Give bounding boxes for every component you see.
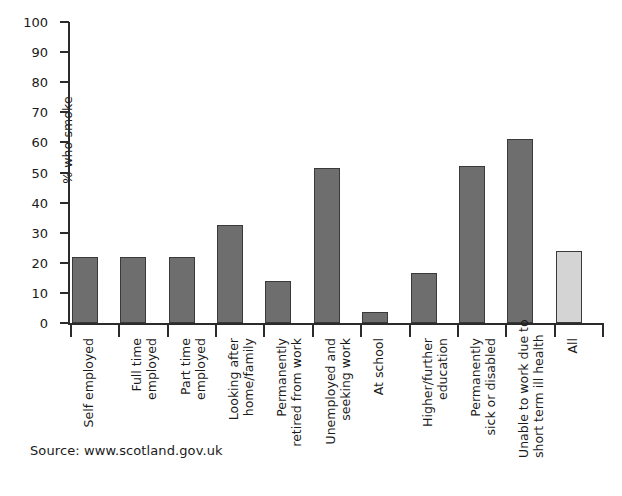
y-tick-label: 90 xyxy=(31,46,48,59)
bar[interactable] xyxy=(120,257,146,323)
x-category-label-line: retired from work xyxy=(290,338,305,458)
x-category-label: All xyxy=(566,338,581,458)
y-tick-mark xyxy=(60,21,69,23)
plot-area xyxy=(70,22,602,323)
bar-slot xyxy=(263,22,311,323)
x-category-label-line: seeking work xyxy=(338,338,353,458)
bar-slot xyxy=(457,22,505,323)
y-axis-tick-labels: 0102030405060708090100 xyxy=(0,0,52,340)
bar[interactable] xyxy=(362,312,388,323)
x-category-label: Permanentlyretired from work xyxy=(275,338,304,458)
x-category-label-line: Permanently xyxy=(469,338,484,458)
bar-slot xyxy=(554,22,602,323)
x-category-label-line: Unable to work due to xyxy=(517,338,532,458)
x-category-label-line: Looking after xyxy=(227,338,242,458)
y-tick-label: 100 xyxy=(23,16,48,29)
x-tick-mark xyxy=(167,325,169,337)
bar-slot xyxy=(70,22,118,323)
x-category-label-line: employed xyxy=(193,338,208,458)
bar[interactable] xyxy=(169,257,195,323)
x-category-label-line: Full time xyxy=(130,338,145,458)
bar-slot xyxy=(167,22,215,323)
x-category-label-line: All xyxy=(566,338,581,458)
x-category-label-line: short term ill health xyxy=(532,338,547,458)
bar[interactable] xyxy=(265,281,291,323)
x-category-label-line: education xyxy=(435,338,450,458)
x-tick-mark xyxy=(263,325,265,337)
bar-chart: % who smoke 0102030405060708090100 Self … xyxy=(0,0,622,496)
bar[interactable] xyxy=(411,273,437,323)
x-category-label: Higher/furthereducation xyxy=(421,338,450,458)
source-note: Source: www.scotland.gov.uk xyxy=(30,443,223,458)
x-category-label: At school xyxy=(372,338,387,458)
y-tick-label: 10 xyxy=(31,286,48,299)
x-category-label-line: sick or disabled xyxy=(483,338,498,458)
x-category-label: Unemployed andseeking work xyxy=(324,338,353,458)
x-category-label-line: Part time xyxy=(179,338,194,458)
bar-slot xyxy=(118,22,166,323)
bar-slot xyxy=(312,22,360,323)
y-tick-mark xyxy=(60,51,69,53)
x-tick-mark xyxy=(312,325,314,337)
bar[interactable] xyxy=(314,168,340,323)
y-tick-label: 60 xyxy=(31,136,48,149)
y-tick-mark xyxy=(60,81,69,83)
bar-slot xyxy=(360,22,408,323)
bar[interactable] xyxy=(217,225,243,323)
x-category-label: Self employed xyxy=(82,338,97,458)
bar[interactable] xyxy=(72,257,98,323)
bar[interactable] xyxy=(507,139,533,323)
x-category-label-line: Higher/further xyxy=(421,338,436,458)
bar-slot xyxy=(409,22,457,323)
x-tick-mark xyxy=(505,325,507,337)
x-tick-mark xyxy=(457,325,459,337)
y-tick-label: 50 xyxy=(31,166,48,179)
y-tick-mark xyxy=(60,232,69,234)
bar-slot xyxy=(505,22,553,323)
x-tick-mark xyxy=(360,325,362,337)
y-tick-label: 70 xyxy=(31,106,48,119)
y-tick-mark xyxy=(60,202,69,204)
y-tick-mark xyxy=(60,262,69,264)
y-tick-label: 30 xyxy=(31,226,48,239)
bar[interactable] xyxy=(556,251,582,323)
x-category-label-line: At school xyxy=(372,338,387,458)
y-tick-label: 80 xyxy=(31,76,48,89)
x-tick-mark xyxy=(409,325,411,337)
y-tick-label: 20 xyxy=(31,256,48,269)
x-category-label: Part timeemployed xyxy=(179,338,208,458)
x-category-label-line: home/family xyxy=(242,338,257,458)
x-tick-mark xyxy=(215,325,217,337)
y-tick-mark xyxy=(60,292,69,294)
x-tick-mark xyxy=(554,325,556,337)
x-category-label: Looking afterhome/family xyxy=(227,338,256,458)
y-tick-mark xyxy=(60,141,69,143)
bar[interactable] xyxy=(459,166,485,323)
x-category-label-line: Unemployed and xyxy=(324,338,339,458)
y-tick-label: 0 xyxy=(40,317,48,330)
x-category-label: Full timeemployed xyxy=(130,338,159,458)
y-tick-label: 40 xyxy=(31,196,48,209)
y-tick-mark xyxy=(60,111,69,113)
x-category-label: Unable to work due toshort term ill heal… xyxy=(517,338,546,458)
x-category-label: Permanentlysick or disabled xyxy=(469,338,498,458)
x-category-label-line: Permanently xyxy=(275,338,290,458)
x-category-label-line: Self employed xyxy=(82,338,97,458)
x-tick-mark xyxy=(118,325,120,337)
x-category-label-line: employed xyxy=(145,338,160,458)
x-tick-mark xyxy=(70,325,72,337)
y-tick-mark xyxy=(60,172,69,174)
x-tick-mark xyxy=(602,325,604,337)
bar-slot xyxy=(215,22,263,323)
